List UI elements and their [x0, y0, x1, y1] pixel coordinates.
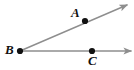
point-b-label: B: [5, 43, 14, 56]
point-b-dot: [17, 48, 23, 54]
point-c-label: C: [88, 54, 97, 67]
point-a-label: A: [71, 6, 80, 19]
point-a-dot: [82, 18, 88, 24]
geometry-figure: A B C: [0, 0, 134, 70]
angle-diagram-svg: [0, 0, 134, 70]
